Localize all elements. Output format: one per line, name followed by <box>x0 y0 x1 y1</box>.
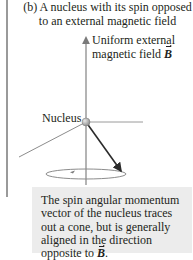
field-label-line-1: Uniform external <box>92 33 175 47</box>
note-line-5-prefix: opposite to <box>41 246 97 260</box>
precession-direction-arrow-icon <box>70 171 75 174</box>
field-label-line-2: magnetic field <box>92 47 164 61</box>
note-line-2: vector of the nucleus traces <box>41 207 186 220</box>
note-line-4: aligned in the direction <box>41 234 186 247</box>
z-axis-line <box>19 122 86 157</box>
magnetic-field-label: Uniform external magnetic field B <box>92 33 175 61</box>
nucleus-label: Nucleus <box>42 111 81 125</box>
b-vector-symbol: B <box>164 47 172 61</box>
spin-vector-arrow <box>86 122 121 171</box>
note-line-3: out a cone, but is generally <box>41 221 186 234</box>
b-vector-symbol-note: B <box>97 247 105 260</box>
nucleus-sphere-icon <box>82 118 90 126</box>
note-line-5-suffix: . <box>105 246 108 260</box>
explanation-note-box: The spin angular momentum vector of the … <box>32 187 192 253</box>
note-line-1: The spin angular momentum <box>41 194 186 207</box>
note-line-5: opposite to B. <box>41 247 186 260</box>
